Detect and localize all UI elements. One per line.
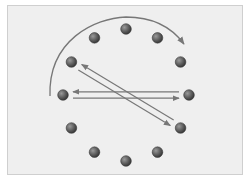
node-9 [58, 90, 69, 101]
node-4 [175, 123, 186, 134]
node-5 [152, 147, 163, 158]
node-11 [89, 33, 100, 44]
node-10 [66, 57, 77, 68]
node-8 [66, 123, 77, 134]
node-3 [184, 90, 195, 101]
node-12 [121, 24, 132, 35]
clockwise-arc [50, 17, 184, 96]
node-2 [175, 57, 186, 68]
node-6 [121, 156, 132, 167]
clock-diagram [0, 0, 251, 181]
node-7 [89, 147, 100, 158]
node-1 [152, 33, 163, 44]
